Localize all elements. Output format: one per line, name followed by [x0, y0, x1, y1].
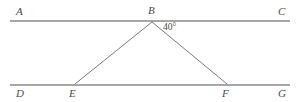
point-label-E: E [69, 88, 76, 99]
triangle-side-BE [75, 22, 152, 84]
point-label-G: G [278, 88, 286, 99]
angle-measure-label-40deg: 40° [163, 23, 176, 33]
point-label-D: D [16, 88, 24, 99]
point-label-B: B [148, 5, 155, 16]
geometry-diagram: A B C D E F G 40° [0, 0, 297, 102]
point-label-F: F [222, 88, 229, 99]
point-label-C: C [278, 6, 285, 17]
point-label-A: A [16, 6, 23, 17]
